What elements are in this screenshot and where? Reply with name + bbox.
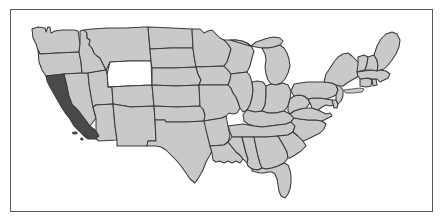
island-santa-catalina (85, 135, 88, 137)
state-new-mexico[interactable] (113, 104, 156, 146)
states-layer (32, 27, 400, 198)
state-south-dakota[interactable] (150, 48, 196, 68)
state-new-jersey[interactable] (336, 85, 343, 104)
state-minnesota[interactable] (192, 29, 231, 67)
state-long-island (344, 88, 364, 93)
state-maine[interactable] (374, 32, 400, 71)
state-washington[interactable] (32, 27, 80, 54)
us-states-map[interactable] (0, 0, 445, 222)
state-north-dakota[interactable] (148, 27, 193, 49)
state-ohio[interactable] (262, 83, 291, 113)
state-connecticut[interactable] (360, 78, 372, 87)
state-kansas[interactable] (152, 85, 200, 107)
island-san-clemente (81, 138, 83, 140)
state-texas[interactable] (147, 120, 214, 183)
state-oregon[interactable] (38, 50, 82, 76)
map-figure (0, 0, 445, 222)
state-rhode-island[interactable] (372, 79, 377, 86)
island-santa-cruz (73, 132, 77, 134)
state-michigan-lower[interactable] (262, 45, 290, 85)
state-nebraska[interactable] (152, 67, 201, 86)
state-colorado[interactable] (108, 85, 154, 107)
state-wyoming[interactable] (107, 61, 152, 87)
state-iowa[interactable] (196, 66, 231, 85)
